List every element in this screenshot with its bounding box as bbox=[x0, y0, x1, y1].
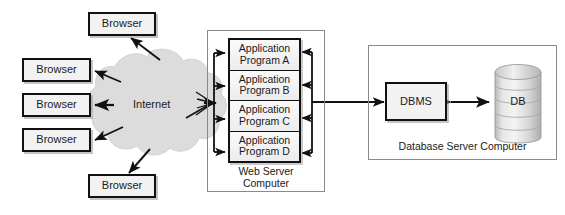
database-server-frame-label: Database Server Computer bbox=[368, 140, 557, 152]
browser-box-2[interactable]: Browser bbox=[22, 58, 91, 82]
application-program-c-label: Application Program C bbox=[239, 104, 290, 128]
application-program-c[interactable]: Application Program C bbox=[230, 101, 299, 132]
database-cylinder-label: DB bbox=[495, 95, 541, 107]
application-program-a-label: Application Program A bbox=[239, 43, 290, 67]
web-server-frame-label: Web Server Computer bbox=[207, 165, 325, 189]
browser-label: Browser bbox=[36, 64, 76, 76]
browser-label: Browser bbox=[102, 180, 142, 192]
application-program-stack: Application Program A Application Progra… bbox=[228, 38, 301, 163]
application-program-d[interactable]: Application Program D bbox=[230, 132, 299, 162]
application-program-b-label: Application Program B bbox=[239, 74, 290, 98]
application-program-b[interactable]: Application Program B bbox=[230, 71, 299, 102]
browser-box-5[interactable]: Browser bbox=[88, 174, 156, 198]
dbms-label: DBMS bbox=[400, 96, 432, 108]
browser-label: Browser bbox=[36, 134, 76, 146]
diagram-canvas: Browser Browser Browser Browser Browser … bbox=[0, 0, 565, 215]
connector-browser-5 bbox=[129, 149, 150, 173]
application-program-a[interactable]: Application Program A bbox=[230, 40, 299, 71]
browser-box-4[interactable]: Browser bbox=[22, 128, 91, 152]
browser-label: Browser bbox=[102, 18, 142, 30]
browser-box-1[interactable]: Browser bbox=[88, 12, 156, 36]
application-program-d-label: Application Program D bbox=[239, 135, 290, 159]
dbms-box[interactable]: DBMS bbox=[385, 82, 447, 121]
